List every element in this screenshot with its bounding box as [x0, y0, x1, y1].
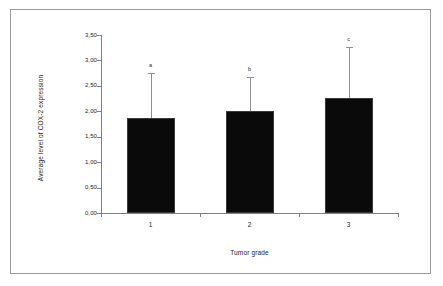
y-axis-tick-label-text: 0,50 — [63, 184, 97, 191]
x-axis-tick — [398, 213, 399, 217]
plot-area: 0,000,501,001,502,002,503,003,50 123 abc… — [0, 0, 443, 286]
error-bar-stem — [250, 77, 251, 111]
y-axis-tick — [97, 86, 101, 87]
y-axis-tick — [97, 60, 101, 61]
y-axis-tick-label: 1,50 — [57, 133, 97, 140]
bar — [325, 98, 373, 213]
x-axis-title: Tumor grade — [101, 249, 398, 256]
error-bar-cap — [148, 73, 155, 74]
error-bar-stem — [349, 47, 350, 98]
significance-annotation: b — [240, 66, 260, 72]
x-axis-line — [101, 213, 398, 214]
y-axis-tick-label: 3,50 — [57, 32, 97, 39]
y-axis-tick — [97, 162, 101, 163]
y-axis-tick-label-text: 1,50 — [63, 133, 97, 140]
significance-annotation: c — [339, 36, 359, 42]
x-axis-tick-label: 1 — [131, 221, 171, 229]
y-axis-tick — [97, 188, 101, 189]
x-axis-tick-label: 3 — [329, 221, 369, 229]
x-axis-tick-label: 2 — [230, 221, 270, 229]
x-axis-tick — [101, 213, 102, 217]
y-axis-tick-label: 2,00 — [57, 108, 97, 115]
error-bar-stem — [151, 73, 152, 118]
y-axis-tick-label: 0,50 — [57, 184, 97, 191]
y-axis-tick-label-text: 3,00 — [63, 57, 97, 64]
y-axis-title: Average level of COX-2 expression — [34, 40, 46, 215]
y-axis-tick-label-text: 2,50 — [63, 82, 97, 89]
y-axis-tick — [97, 137, 101, 138]
bar — [226, 111, 274, 213]
y-axis-tick-label-text: 2,00 — [63, 108, 97, 115]
bar — [127, 118, 175, 213]
x-axis-tick — [200, 213, 201, 217]
y-axis-line — [101, 35, 102, 214]
y-axis-tick-label: 1,00 — [57, 159, 97, 166]
y-axis-tick-label: 3,00 — [57, 57, 97, 64]
y-axis-tick-label: 2,50 — [57, 82, 97, 89]
y-axis-tick — [97, 35, 101, 36]
figure-container: 0,000,501,001,502,002,503,003,50 123 abc… — [0, 0, 443, 286]
error-bar-cap — [247, 77, 254, 78]
y-axis-tick-label-text: 3,50 — [63, 32, 97, 39]
y-axis-tick — [97, 111, 101, 112]
y-axis-title-text: Average level of COX-2 expression — [37, 74, 44, 180]
y-axis-tick-label-text: 1,00 — [63, 159, 97, 166]
y-axis-tick-label: 0,00 — [57, 210, 97, 217]
x-axis-tick — [299, 213, 300, 217]
significance-annotation: a — [141, 62, 161, 68]
y-axis-tick-label-text: 0,00 — [63, 210, 97, 217]
error-bar-cap — [346, 47, 353, 48]
